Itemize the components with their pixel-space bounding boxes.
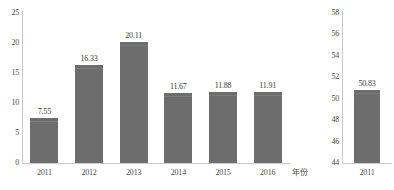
right-y-tick-56: 56 [323,30,339,38]
category-label-2011: 2011 [360,168,375,177]
bar-slot: 11.88 [201,13,246,163]
category-label-2012: 2012 [81,168,96,177]
bar-value-label: 50.83 [358,79,375,88]
right-y-tick-50: 50 [323,95,339,103]
bar-2016[interactable] [254,92,282,163]
category-label-2011: 2011 [37,168,52,177]
bar-value-label: 11.91 [259,81,276,90]
bar-slot: 16.33 [67,13,112,163]
right-y-tick-44: 44 [323,159,339,167]
x-axis-title: 年份 [292,168,308,177]
category-label-2013: 2013 [126,168,141,177]
left-x-axis-line [22,163,290,164]
left-y-tick-10: 10 [3,99,19,107]
left-plot-area: 7.5516.3320.1111.6711.8811.91 [22,13,290,163]
left-y-tick-5: 5 [3,129,19,137]
right-plot-area: 50.83 [342,13,392,163]
category-label-2015: 2015 [215,168,230,177]
chart-panel-right: 4446485052545658 50.83 2011 [312,0,394,190]
bar-2015[interactable] [209,92,237,163]
left-y-tick-20: 20 [3,39,19,47]
bar-slot: 11.67 [156,13,201,163]
bar-2014[interactable] [164,93,192,163]
bar-2011[interactable] [30,118,58,163]
bar-2011[interactable] [354,90,380,163]
right-y-tick-58: 58 [323,9,339,17]
right-y-tick-52: 52 [323,73,339,81]
right-y-tick-54: 54 [323,52,339,60]
left-y-tick-0: 0 [3,159,19,167]
right-y-tick-46: 46 [323,138,339,146]
bar-value-label: 16.33 [80,54,97,63]
bar-2013[interactable] [120,42,148,163]
bar-value-label: 11.88 [215,81,232,90]
bar-value-label: 20.11 [125,31,142,40]
bar-value-label: 11.67 [170,82,187,91]
bar-slot: 20.11 [111,13,156,163]
category-label-2014: 2014 [171,168,186,177]
chart-panel-left: 0510152025 7.5516.3320.1111.6711.8811.91… [0,0,312,190]
bar-slot: 50.83 [342,13,392,163]
bar-chart-figure: 0510152025 7.5516.3320.1111.6711.8811.91… [0,0,394,190]
category-label-2016: 2016 [260,168,275,177]
bar-slot: 11.91 [245,13,290,163]
left-y-tick-15: 15 [3,69,19,77]
left-y-tick-25: 25 [3,9,19,17]
bar-value-label: 7.55 [38,107,51,116]
bar-slot: 7.55 [22,13,67,163]
bar-2012[interactable] [75,65,103,163]
right-x-axis-line [342,163,392,164]
right-y-tick-48: 48 [323,116,339,124]
